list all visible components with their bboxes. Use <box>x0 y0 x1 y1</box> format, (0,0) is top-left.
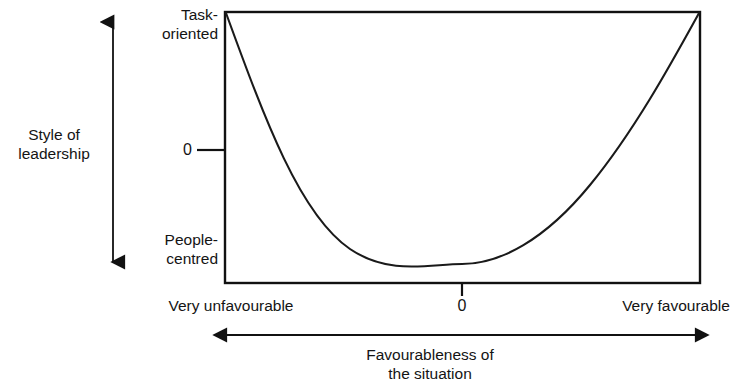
y-axis-caption-line1: Style of <box>28 126 80 143</box>
leadership-style-figure: Style ofleadership Task-oriented People-… <box>0 0 742 387</box>
y-axis-top-label: Task-oriented <box>104 5 218 43</box>
y-axis-bottom-label: People-centred <box>104 230 218 268</box>
x-axis-right-label: Very favourable <box>612 296 740 315</box>
x-axis-left-label: Very unfavourable <box>145 296 317 315</box>
x-axis-caption-line2: the situation <box>388 365 472 382</box>
plot-area-frame <box>225 12 700 283</box>
y-axis-zero-label: 0 <box>166 140 192 159</box>
x-axis-caption-line1: Favourableness of <box>366 346 494 363</box>
figure-graphic <box>0 0 742 387</box>
y-axis-caption: Style ofleadership <box>2 125 106 163</box>
y-axis-bottom-label-line2: centred <box>166 250 218 267</box>
x-axis-caption: Favourableness ofthe situation <box>300 345 560 383</box>
x-axis-zero-label: 0 <box>448 296 476 315</box>
y-axis-bottom-label-line1: People- <box>165 231 218 248</box>
y-axis-caption-line2: leadership <box>18 145 90 162</box>
y-axis-top-label-line1: Task- <box>181 6 218 23</box>
y-axis-top-label-line2: oriented <box>162 25 218 42</box>
